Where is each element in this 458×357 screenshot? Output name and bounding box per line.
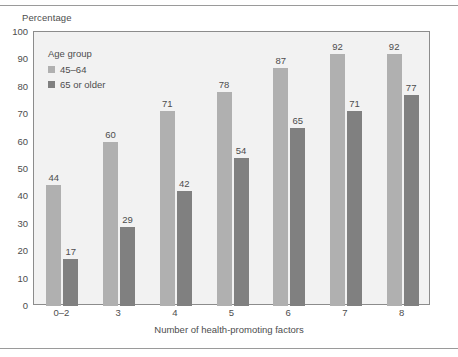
bar-value-label: 60 — [105, 129, 116, 140]
bar-value-label: 87 — [275, 55, 286, 66]
bar[interactable]: 92 — [387, 54, 402, 306]
bar[interactable]: 17 — [63, 259, 78, 306]
legend-label-65-or-older: 65 or older — [60, 79, 105, 90]
bar-group: 8765 — [273, 32, 305, 306]
bar[interactable]: 78 — [217, 92, 232, 306]
legend-item-45-64: 45–64 — [48, 64, 105, 75]
bar-value-label: 92 — [389, 41, 400, 52]
y-axis-title: Percentage — [22, 12, 72, 23]
bar[interactable]: 71 — [160, 111, 175, 306]
y-axis-tick-0: 0 — [23, 300, 28, 311]
x-axis-tick-labels: 0–2345678 — [33, 307, 430, 323]
x-axis-tick-label: 0–2 — [53, 307, 69, 318]
bar-group: 7854 — [217, 32, 249, 306]
bar-value-label: 44 — [49, 172, 60, 183]
y-axis-tick-labels: 1009080706050403020100 — [0, 31, 31, 305]
y-axis-tick-60: 60 — [17, 135, 28, 146]
bar-value-label: 71 — [349, 98, 360, 109]
y-axis-tick-30: 30 — [17, 217, 28, 228]
bar[interactable]: 42 — [177, 191, 192, 306]
bar-group: 7142 — [160, 32, 192, 306]
y-axis-tick-90: 90 — [17, 53, 28, 64]
bar[interactable]: 87 — [273, 68, 288, 306]
y-axis-tick-40: 40 — [17, 190, 28, 201]
bar-value-label: 78 — [219, 79, 230, 90]
legend: Age group 45–64 65 or older — [48, 48, 105, 94]
legend-label-45-64: 45–64 — [60, 64, 86, 75]
plot-area: 4417602971427854876592719277 Age group 4… — [33, 31, 430, 305]
top-divider-rule — [0, 5, 458, 6]
x-axis-title: Number of health-promoting factors — [0, 324, 458, 335]
y-axis-tick-100: 100 — [12, 26, 28, 37]
x-axis-tick-label: 5 — [229, 307, 234, 318]
y-axis-tick-20: 20 — [17, 245, 28, 256]
bar-group: 9277 — [387, 32, 419, 306]
x-axis-tick-label: 8 — [399, 307, 404, 318]
bar[interactable]: 60 — [103, 142, 118, 306]
bar-value-label: 65 — [292, 115, 303, 126]
bar[interactable]: 54 — [234, 158, 249, 306]
bar-group: 9271 — [330, 32, 362, 306]
legend-title: Age group — [48, 48, 105, 59]
bar-value-label: 42 — [179, 178, 190, 189]
y-axis-tick-10: 10 — [17, 272, 28, 283]
bar-value-label: 17 — [66, 246, 77, 257]
bottom-divider-rule — [0, 348, 458, 349]
x-axis-tick-label: 7 — [342, 307, 347, 318]
legend-item-65-or-older: 65 or older — [48, 79, 105, 90]
bar[interactable]: 29 — [120, 227, 135, 306]
bar[interactable]: 44 — [46, 185, 61, 306]
legend-swatch-icon-45-64 — [48, 66, 55, 73]
bar-value-label: 29 — [122, 214, 133, 225]
bar[interactable]: 71 — [347, 111, 362, 306]
x-axis-tick-label: 4 — [172, 307, 177, 318]
bar[interactable]: 77 — [404, 95, 419, 306]
y-axis-tick-70: 70 — [17, 108, 28, 119]
bar-value-label: 92 — [332, 41, 343, 52]
y-axis-tick-50: 50 — [17, 163, 28, 174]
bar-value-label: 77 — [406, 82, 417, 93]
bar[interactable]: 92 — [330, 54, 345, 306]
legend-swatch-icon-65-or-older — [48, 81, 55, 88]
bar-group: 6029 — [103, 32, 135, 306]
bar[interactable]: 65 — [290, 128, 305, 306]
bar-value-label: 54 — [236, 145, 247, 156]
x-axis-tick-label: 3 — [115, 307, 120, 318]
bar-value-label: 71 — [162, 98, 173, 109]
y-axis-tick-80: 80 — [17, 80, 28, 91]
x-axis-tick-label: 6 — [286, 307, 291, 318]
